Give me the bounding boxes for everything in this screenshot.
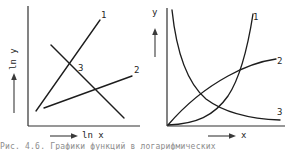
left-curve-3 [51,45,124,118]
right-curve-label-2: 2 [277,57,282,66]
figure-container: 1 2 3 ln y ln x 1 2 3 y x Рис. 4.6. Граф… [0,0,288,150]
left-x-axis-arrow [50,133,78,139]
right-y-axis-label: y [152,8,157,17]
left-x-axis-label: ln x [82,131,104,140]
left-panel-curves [36,20,132,118]
right-panel-curves [168,10,280,125]
left-curve-label-2: 2 [134,66,139,75]
left-y-axis-arrow [11,73,17,113]
right-curve-label-1: 1 [253,13,258,22]
right-y-axis-arrow [152,28,158,57]
left-y-axis-label: ln y [9,48,18,70]
left-curve-1 [36,20,100,111]
right-curve-label-3: 3 [277,108,282,117]
figure-svg [0,0,288,150]
left-curve-label-1: 1 [101,11,106,20]
left-curve-label-3: 3 [78,64,83,73]
right-x-axis-label: x [241,131,246,140]
figure-caption-fragment: Рис. 4.6. Графики функций в логарифмичес… [0,142,288,150]
right-curve-2 [168,59,276,125]
right-x-axis-arrow [208,133,236,139]
